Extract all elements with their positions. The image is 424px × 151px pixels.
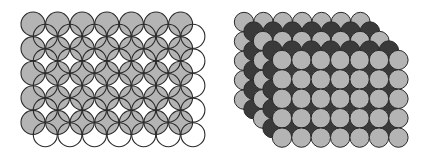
circle bbox=[389, 89, 408, 108]
circle bbox=[119, 37, 143, 61]
circle bbox=[389, 109, 408, 128]
circle bbox=[21, 86, 45, 110]
circle bbox=[83, 74, 107, 98]
circle bbox=[33, 98, 57, 122]
circle bbox=[107, 98, 131, 122]
circle bbox=[156, 24, 180, 48]
circle bbox=[33, 123, 57, 147]
circle bbox=[107, 74, 131, 98]
circle bbox=[83, 98, 107, 122]
circle bbox=[181, 49, 205, 73]
circle bbox=[272, 109, 291, 128]
circle bbox=[350, 50, 369, 69]
circle bbox=[350, 128, 369, 147]
circle bbox=[331, 89, 350, 108]
circle bbox=[331, 50, 350, 69]
circle bbox=[46, 110, 70, 134]
circle bbox=[292, 128, 311, 147]
circle bbox=[169, 12, 193, 36]
circle bbox=[132, 123, 156, 147]
circle bbox=[144, 86, 168, 110]
circle bbox=[331, 128, 350, 147]
circle bbox=[132, 98, 156, 122]
circle bbox=[46, 12, 70, 36]
circle bbox=[33, 74, 57, 98]
circle bbox=[70, 86, 94, 110]
circle bbox=[292, 89, 311, 108]
circle bbox=[331, 70, 350, 89]
circle bbox=[58, 49, 82, 73]
circle bbox=[331, 109, 350, 128]
circle bbox=[389, 70, 408, 89]
circle bbox=[272, 50, 291, 69]
circle bbox=[350, 70, 369, 89]
circle bbox=[156, 49, 180, 73]
circle bbox=[70, 61, 94, 85]
circle bbox=[156, 98, 180, 122]
circle bbox=[21, 110, 45, 134]
circle bbox=[169, 61, 193, 85]
circle bbox=[144, 61, 168, 85]
circle bbox=[21, 61, 45, 85]
circle bbox=[292, 50, 311, 69]
circle bbox=[83, 49, 107, 73]
circle bbox=[369, 89, 388, 108]
circle bbox=[132, 74, 156, 98]
circle bbox=[272, 70, 291, 89]
circle bbox=[369, 70, 388, 89]
circle bbox=[272, 89, 291, 108]
circle bbox=[181, 24, 205, 48]
circle bbox=[119, 86, 143, 110]
circle bbox=[83, 123, 107, 147]
circle bbox=[181, 74, 205, 98]
circle bbox=[292, 70, 311, 89]
circle bbox=[95, 61, 119, 85]
layer-5-gray bbox=[272, 50, 408, 147]
circle bbox=[58, 74, 82, 98]
circle bbox=[107, 123, 131, 147]
circle bbox=[95, 37, 119, 61]
circle bbox=[369, 50, 388, 69]
circle bbox=[181, 123, 205, 147]
circle bbox=[21, 12, 45, 36]
circle bbox=[369, 109, 388, 128]
circle bbox=[119, 110, 143, 134]
circle bbox=[21, 37, 45, 61]
circle bbox=[311, 89, 330, 108]
circle bbox=[70, 12, 94, 36]
circle bbox=[311, 50, 330, 69]
circle bbox=[169, 110, 193, 134]
circle bbox=[132, 24, 156, 48]
circle bbox=[107, 24, 131, 48]
circle bbox=[107, 49, 131, 73]
circle bbox=[95, 12, 119, 36]
circle bbox=[350, 109, 369, 128]
circle bbox=[389, 50, 408, 69]
circle bbox=[144, 37, 168, 61]
circle bbox=[46, 61, 70, 85]
circle bbox=[311, 70, 330, 89]
circle bbox=[33, 49, 57, 73]
circle bbox=[156, 74, 180, 98]
circle bbox=[58, 24, 82, 48]
circle bbox=[83, 24, 107, 48]
circle bbox=[58, 123, 82, 147]
circle bbox=[311, 128, 330, 147]
circle bbox=[33, 24, 57, 48]
circle bbox=[169, 86, 193, 110]
circle bbox=[389, 128, 408, 147]
circle bbox=[144, 12, 168, 36]
circle bbox=[119, 61, 143, 85]
circle bbox=[132, 49, 156, 73]
circle bbox=[350, 89, 369, 108]
circle bbox=[46, 37, 70, 61]
circle bbox=[311, 109, 330, 128]
circle bbox=[156, 123, 180, 147]
left-figure-two-layer-overlap bbox=[21, 12, 205, 147]
circle bbox=[169, 37, 193, 61]
circle bbox=[95, 86, 119, 110]
circle bbox=[144, 110, 168, 134]
circle bbox=[369, 128, 388, 147]
circle bbox=[119, 12, 143, 36]
circle bbox=[181, 98, 205, 122]
